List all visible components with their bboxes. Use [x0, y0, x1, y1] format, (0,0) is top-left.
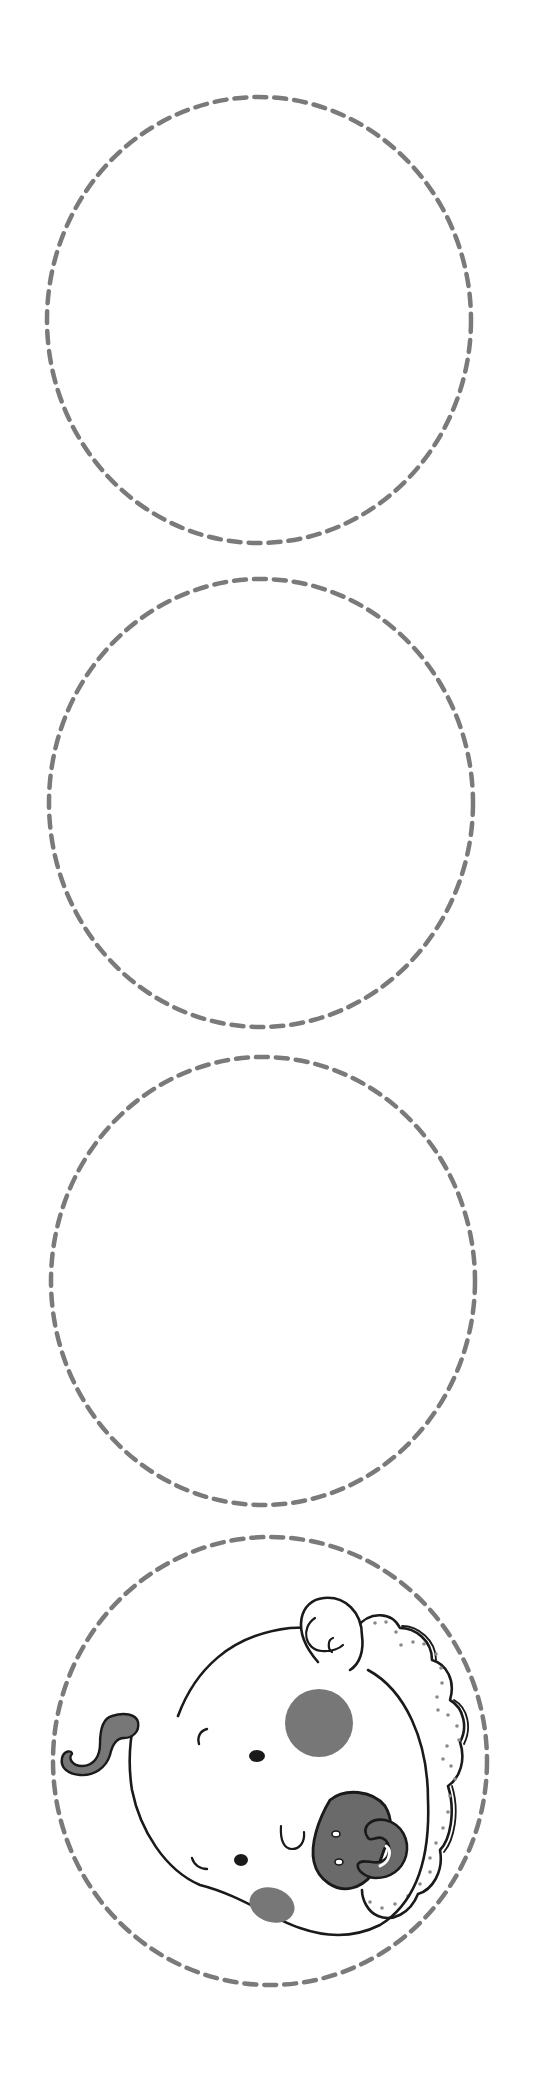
eyebrow-lower [192, 1858, 207, 1869]
dashed-circle-outline-2 [49, 579, 473, 1027]
closed-eye [281, 1826, 304, 1849]
baby-face-illustration [62, 1598, 468, 1935]
cheek-spot-small [245, 1882, 299, 1929]
eye-dot-upper [249, 1750, 265, 1762]
ear-icon [301, 1598, 362, 1670]
cutout-sheet: Baby face cut-out circles [0, 0, 537, 2084]
eyebrow-upper [198, 1729, 207, 1744]
hair-curl-icon [62, 1714, 139, 1775]
cheek-spot-large [285, 1689, 353, 1757]
eye-dot-lower [234, 1854, 248, 1866]
dashed-circle-outline-1 [47, 97, 471, 543]
cutout-circle-1 [0, 0, 537, 2084]
dashed-circle-outline-3 [51, 1057, 475, 1505]
